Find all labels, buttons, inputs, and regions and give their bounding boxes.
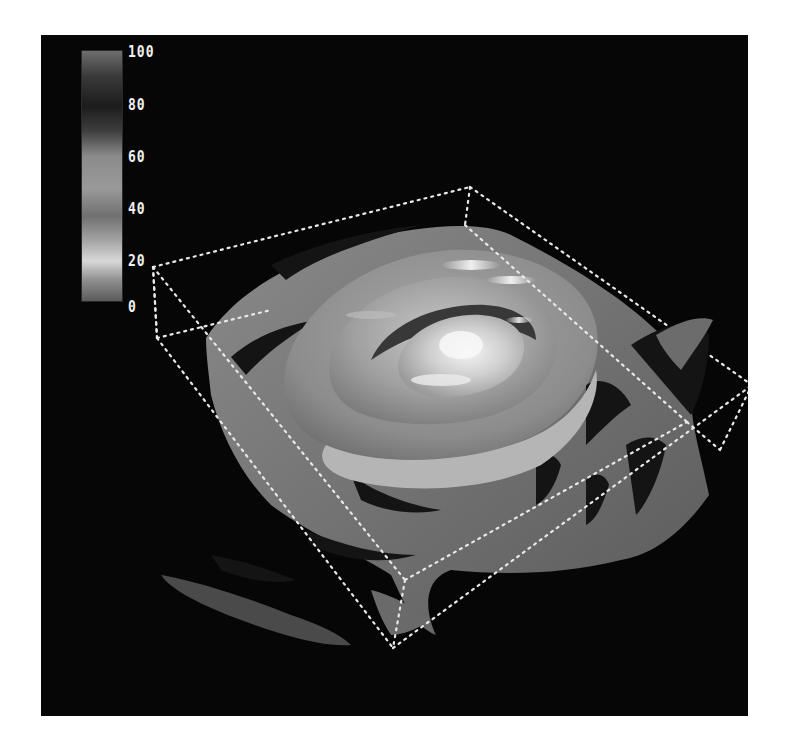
3d-viewport[interactable]: 100 80 60 40 20 0 xyxy=(41,35,748,716)
isosurface-scene[interactable] xyxy=(41,35,748,716)
isosurface-lower-flap xyxy=(161,575,351,645)
